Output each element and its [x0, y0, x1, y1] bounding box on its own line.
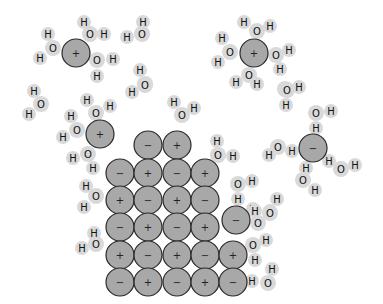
lattice-sodium-ion: + [134, 159, 162, 187]
atom-label: O [178, 110, 186, 121]
plus-sign-icon: + [116, 250, 124, 261]
plus-sign-icon: + [96, 129, 104, 140]
hydrogen-atom: H [66, 151, 80, 165]
plus-sign-icon: + [173, 195, 181, 206]
atom-label: H [218, 33, 226, 44]
atom-label: O [92, 239, 100, 250]
atom-label: H [302, 163, 310, 174]
atom-label: H [83, 95, 91, 106]
hydrogen-atom: H [265, 262, 279, 276]
lattice-chloride-ion: − [106, 159, 134, 187]
plus-sign-icon: + [116, 195, 124, 206]
oxygen-atom: O [262, 205, 278, 221]
hydrogen-atom: H [279, 98, 293, 112]
hydrogen-atom: H [211, 55, 225, 69]
atom-label: H [69, 153, 77, 164]
hydrogen-atom: H [262, 148, 276, 162]
hydrogen-atom: H [215, 31, 229, 45]
lattice-sodium-ion: + [191, 213, 219, 241]
atom-label: H [253, 79, 261, 90]
lattice-chloride-ion: − [163, 159, 191, 187]
hydrogen-atom: H [97, 27, 111, 41]
plus-sign-icon: + [201, 277, 209, 288]
atom-label: H [251, 206, 259, 217]
atom-label: O [49, 43, 57, 54]
atom-label: H [273, 194, 281, 205]
hydrogen-atom: H [64, 109, 78, 123]
oxygen-atom: O [230, 176, 246, 192]
hydrogen-atom: H [231, 192, 245, 206]
atom-label: H [36, 53, 44, 64]
hydrogen-atom: H [324, 104, 338, 118]
lattice-chloride-ion: − [134, 186, 162, 214]
lattice-chloride-ion: − [163, 268, 191, 296]
atom-label: H [100, 29, 108, 40]
atom-label: H [351, 160, 359, 171]
atom-label: H [266, 21, 274, 32]
hydrogen-atom: H [210, 134, 224, 148]
hydrogen-atom: H [270, 192, 284, 206]
hydrogen-atom: H [106, 52, 120, 66]
plus-sign-icon: + [250, 48, 258, 59]
atom-label: O [73, 125, 81, 136]
minus-sign-icon: − [144, 250, 152, 261]
atom-label: H [327, 106, 335, 117]
atom-label: O [86, 29, 94, 40]
oxygen-atom: O [137, 77, 153, 93]
detaching-chloride-ion: − [222, 206, 250, 234]
lattice-sodium-ion: + [219, 241, 247, 269]
lattice-chloride-ion: − [106, 268, 134, 296]
atom-label: H [25, 109, 33, 120]
atom-label: O [254, 218, 262, 229]
atom-label: O [138, 29, 146, 40]
oxygen-atom: O [268, 47, 284, 63]
oxygen-atom: O [33, 96, 49, 112]
lattice-sodium-ion: + [106, 186, 134, 214]
atom-label: H [80, 17, 88, 28]
hydrogen-atom: H [80, 93, 94, 107]
hydrogen-atom: H [282, 43, 296, 57]
hydrogen-atom: H [77, 15, 91, 29]
hydrogen-atom: H [248, 204, 262, 218]
oxygen-atom: O [45, 40, 61, 56]
atom-label: O [249, 240, 257, 251]
hydrogen-atom: H [167, 95, 181, 109]
atom-label: H [93, 71, 101, 82]
hydrated-sodium-ion-top-left: + [62, 39, 90, 67]
atom-label: H [265, 150, 273, 161]
atom-label: H [248, 176, 256, 187]
hydrogen-atom: H [348, 158, 362, 172]
hydrogen-atom: H [263, 19, 277, 33]
minus-sign-icon: − [116, 277, 124, 288]
oxygen-atom: O [69, 122, 85, 138]
oxygen-atom: O [88, 105, 104, 121]
hydrogen-atom: H [125, 85, 139, 99]
oxygen-atom: O [260, 275, 276, 291]
minus-sign-icon: − [201, 250, 209, 261]
minus-sign-icon: − [201, 195, 209, 206]
hydrogen-atom: H [33, 51, 47, 65]
atom-label: O [266, 208, 274, 219]
atom-label: H [109, 54, 117, 65]
hydrogen-atom: H [273, 62, 287, 76]
atom-label: H [288, 146, 296, 157]
oxygen-atom: O [245, 237, 261, 253]
oxygen-atom: O [249, 23, 265, 39]
atom-label: O [337, 164, 345, 175]
atom-label: H [123, 32, 131, 43]
atom-label: H [325, 156, 333, 167]
atom-label: H [276, 64, 284, 75]
hydrogen-atom: H [250, 77, 264, 91]
atom-label: H [78, 243, 86, 254]
hydrated-chloride-ion-right: − [299, 134, 327, 162]
hydrogen-atom: H [248, 253, 262, 267]
hydrogen-atom: H [245, 174, 259, 188]
minus-sign-icon: − [232, 215, 240, 226]
atom-label: O [234, 179, 242, 190]
atom-label: O [92, 108, 100, 119]
atom-label: H [106, 101, 114, 112]
minus-sign-icon: − [229, 277, 237, 288]
lattice-chloride-ion: − [134, 241, 162, 269]
atom-label: O [264, 278, 272, 289]
lattice-chloride-ion: − [191, 186, 219, 214]
